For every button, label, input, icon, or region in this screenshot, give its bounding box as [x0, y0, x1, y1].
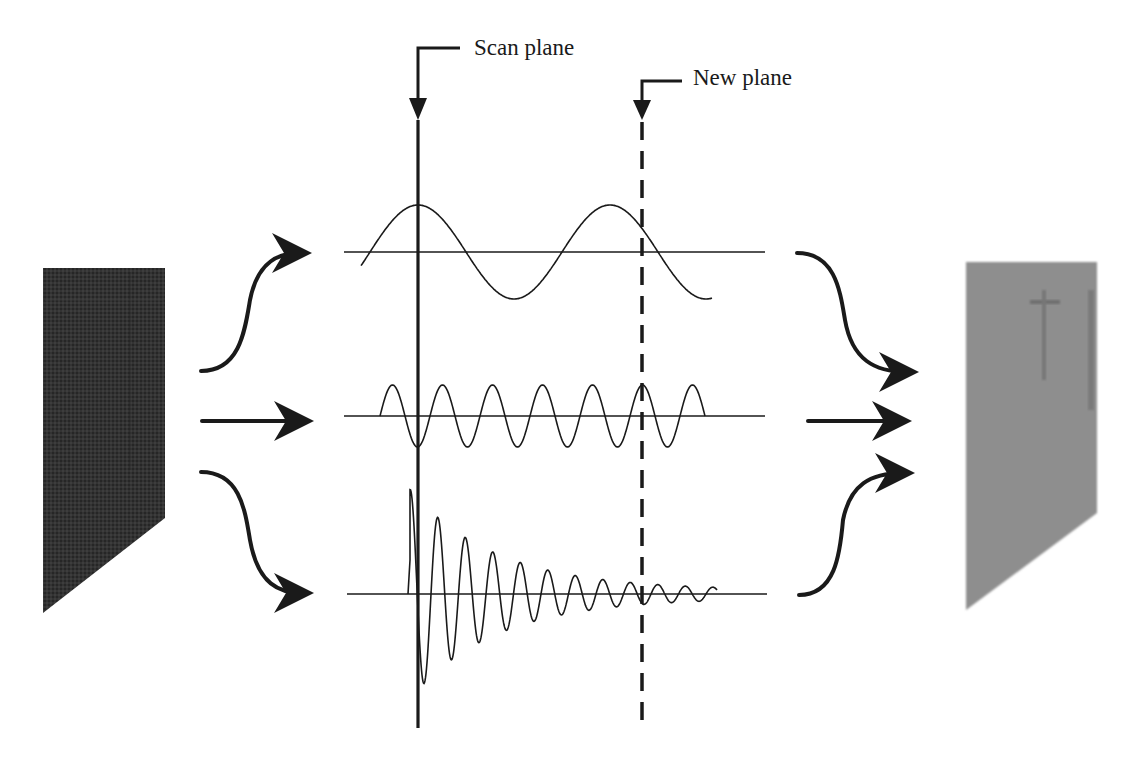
new-plane-label: New plane — [693, 66, 792, 89]
new-plane-arrowhead-icon — [633, 100, 651, 120]
arrow-to-damped — [201, 472, 302, 593]
scan-plane-bracket — [418, 48, 460, 100]
arrow-to-low-frequency — [201, 253, 300, 371]
diagram-canvas — [0, 0, 1137, 758]
new-plane-marker — [633, 81, 682, 728]
decompose-arrows — [201, 253, 302, 593]
input-specimen — [43, 268, 165, 613]
recombine-arrows — [797, 253, 907, 595]
output-specimen — [966, 262, 1097, 610]
scan-plane-arrowhead-icon — [409, 98, 427, 120]
new-plane-bracket — [642, 81, 682, 102]
scan-plane-marker — [409, 48, 460, 728]
arrow-from-low-frequency — [797, 253, 907, 372]
scan-plane-label: Scan plane — [474, 36, 574, 59]
damped-wave — [408, 490, 717, 684]
arrow-from-damped — [799, 473, 903, 595]
